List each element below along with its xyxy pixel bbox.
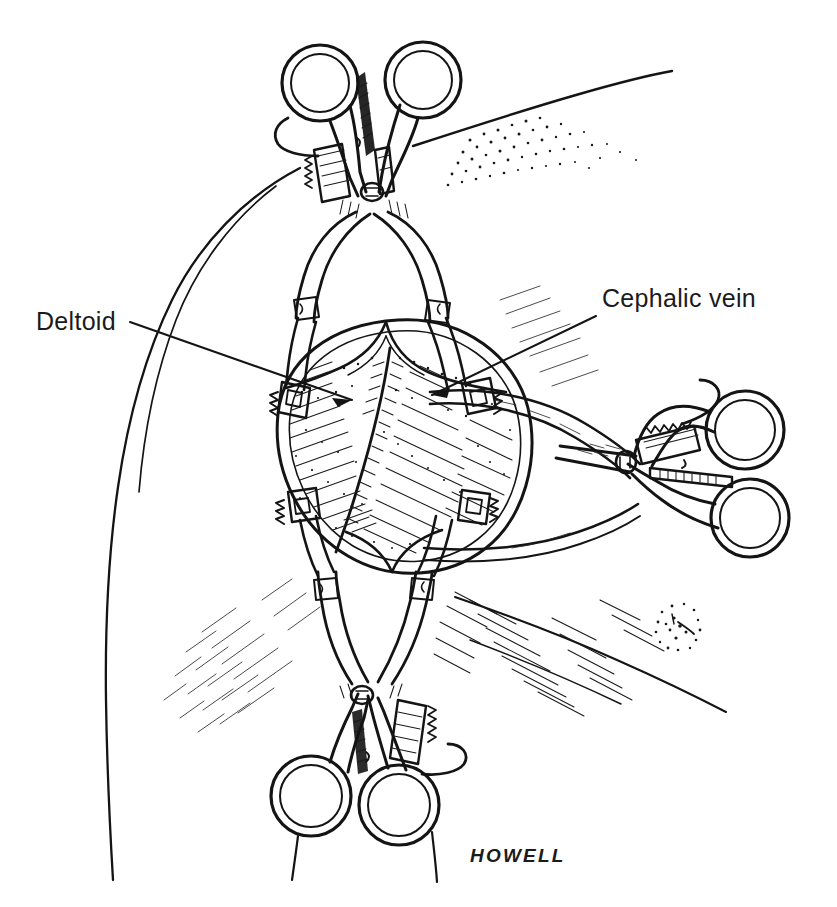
illustration-root: Deltoid Cephalic vein HOWELL	[0, 0, 837, 907]
surgical-illustration: Deltoid Cephalic vein HOWELL	[0, 0, 837, 907]
label-deltoid: Deltoid	[36, 307, 116, 335]
artist-signature: HOWELL	[470, 845, 566, 866]
label-cephalic-vein: Cephalic vein	[602, 284, 756, 312]
